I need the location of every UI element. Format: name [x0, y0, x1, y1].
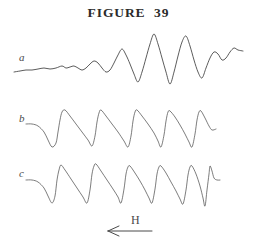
trace-label-b: b: [19, 113, 25, 124]
trace-label-c: c: [19, 168, 24, 179]
trace-line-c: [26, 164, 220, 206]
axis-arrow-group: H: [104, 214, 164, 240]
figure-container: FIGURE 39 a b c H: [0, 0, 257, 243]
trace-line-a: [14, 34, 243, 84]
trace-line-b: [26, 110, 216, 147]
trace-label-a: a: [19, 52, 25, 63]
axis-label-h: H: [131, 214, 140, 226]
traces-plot: [0, 0, 257, 243]
